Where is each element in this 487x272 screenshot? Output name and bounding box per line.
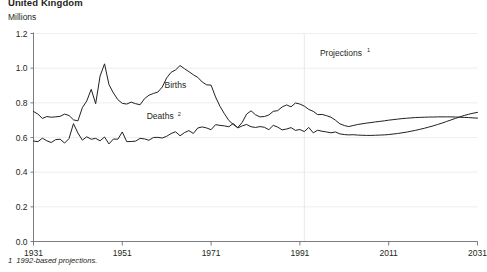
- y-axis-tick-label: 0.0: [16, 237, 28, 247]
- x-axis-tick-label: 1971: [202, 248, 221, 258]
- x-axis-tick-label: 2011: [380, 248, 399, 258]
- series-line-deaths: [34, 112, 478, 144]
- y-axis-tick-label: 0.2: [16, 202, 28, 212]
- x-axis-tick-label: 1991: [290, 248, 309, 258]
- footnote-number: 1: [8, 256, 12, 265]
- series-line-births: [34, 64, 478, 128]
- series-label-deaths: Deaths: [147, 111, 174, 121]
- series-label-births: Births: [164, 80, 186, 90]
- projections-annotation-superscript: 1: [367, 47, 370, 53]
- x-axis-tick-label: 2031: [468, 248, 487, 258]
- chart-figure: United Kingdom Millions 0.00.20.40.60.81…: [0, 0, 487, 272]
- series-label-deaths-superscript: 2: [178, 111, 181, 117]
- y-axis-tick-label: 1.0: [16, 63, 28, 73]
- y-axis-tick-label: 1.2: [16, 29, 28, 39]
- y-axis-tick-label: 0.8: [16, 98, 28, 108]
- projections-annotation: Projections: [320, 48, 362, 58]
- x-axis-tick-label: 1951: [113, 248, 132, 258]
- footnote-text: 1992-based projections.: [16, 256, 97, 265]
- footnote: 11992-based projections.: [8, 256, 97, 265]
- line-chart-plot: 0.00.20.40.60.81.01.21931195119711991201…: [0, 0, 487, 272]
- y-axis-tick-label: 0.4: [16, 167, 28, 177]
- y-axis-tick-label: 0.6: [16, 133, 28, 143]
